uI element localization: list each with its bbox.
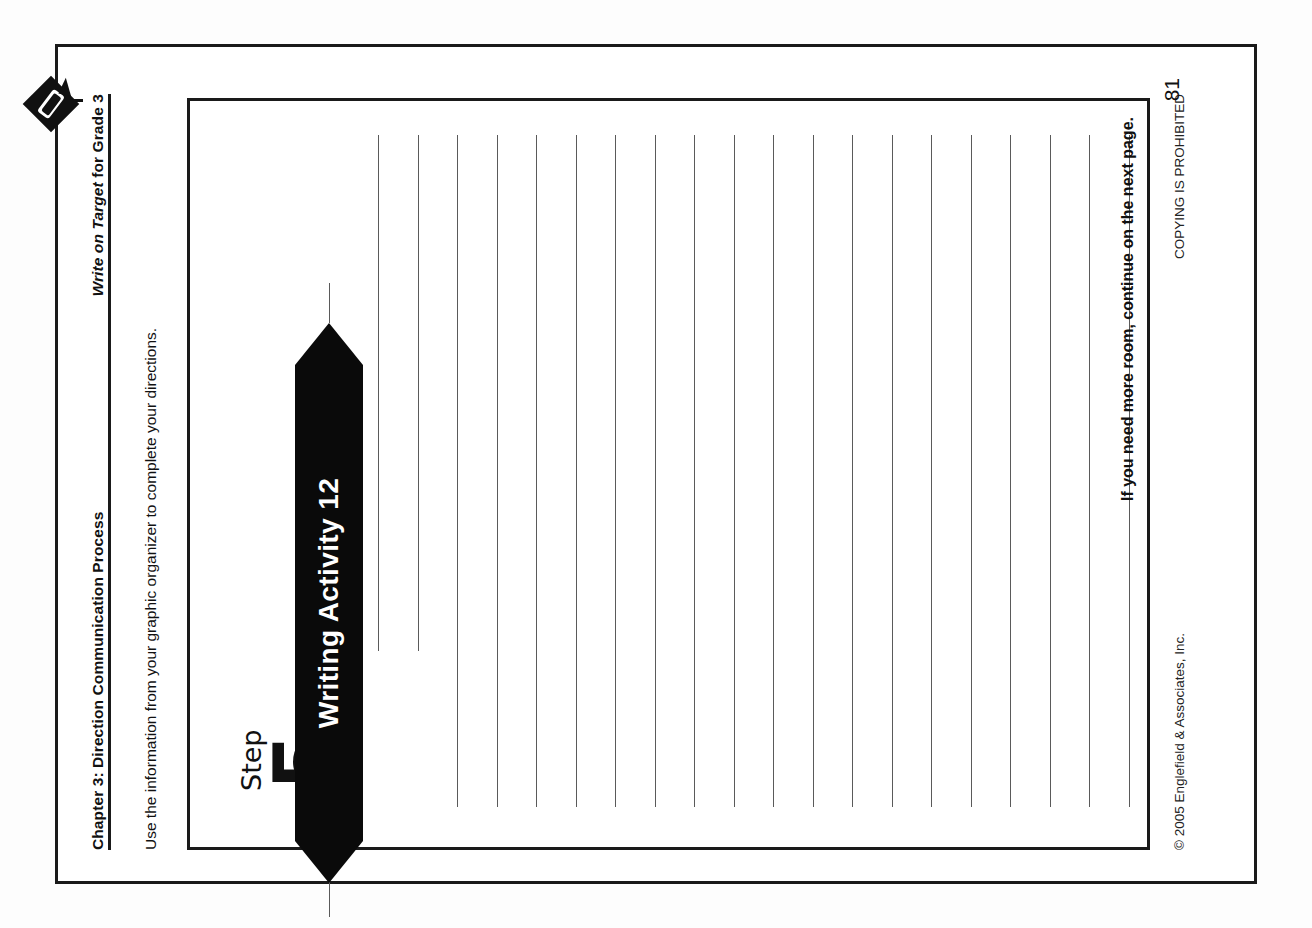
- banner-stem-line: [329, 881, 330, 917]
- writing-line: [892, 135, 893, 807]
- writing-line: [655, 135, 656, 807]
- page-header: Chapter 3: Direction Communication Proce…: [81, 94, 107, 850]
- banner-stem-line: [329, 283, 330, 323]
- writing-line: [615, 135, 616, 807]
- instruction-text: Use the information from your graphic or…: [141, 110, 162, 850]
- footer-copyright: © 2005 Englefield & Associates, Inc.: [1172, 633, 1187, 850]
- header-book-title-grade: for Grade 3: [89, 94, 106, 182]
- writing-line: [378, 135, 379, 651]
- writing-line: [418, 135, 419, 651]
- writing-line: [734, 135, 735, 807]
- writing-line: [536, 135, 537, 807]
- page-number: 81: [1160, 78, 1184, 101]
- page-footer: © 2005 Englefield & Associates, Inc. COP…: [1167, 94, 1191, 850]
- logo-pencil-tip-icon: [58, 77, 74, 96]
- writing-line: [457, 135, 458, 807]
- writing-line: [773, 135, 774, 807]
- footer-notice: COPYING IS PROHIBITED: [1172, 94, 1187, 259]
- scanned-page-canvas: Chapter 3: Direction Communication Proce…: [0, 0, 1312, 928]
- writing-line: [497, 135, 498, 807]
- writing-line: [971, 135, 972, 807]
- activity-banner-label: Writing Activity 12: [313, 478, 345, 728]
- header-book-title: Write on Target for Grade 3: [89, 94, 107, 297]
- activity-banner: Writing Activity 12: [295, 323, 363, 883]
- writing-line: [1010, 135, 1011, 807]
- writing-line: [852, 135, 853, 807]
- activity-box: Step 5 Writing Activity 12 If you need m…: [187, 98, 1150, 850]
- writing-line: [694, 135, 695, 807]
- header-underline: [108, 94, 111, 850]
- writing-line: [1089, 135, 1090, 807]
- writing-line: [931, 135, 932, 807]
- writing-line: [1050, 135, 1051, 807]
- logo-stem: [67, 100, 83, 103]
- writing-line: [813, 135, 814, 807]
- writing-line: [576, 135, 577, 807]
- header-chapter-title: Chapter 3: Direction Communication Proce…: [89, 512, 107, 850]
- header-book-title-italic: Write on Target: [89, 182, 106, 296]
- worksheet-page: Chapter 3: Direction Communication Proce…: [55, 44, 1257, 884]
- diamond-pencil-logo-icon: [27, 74, 81, 128]
- continue-note: If you need more room, continue on the n…: [1119, 117, 1137, 501]
